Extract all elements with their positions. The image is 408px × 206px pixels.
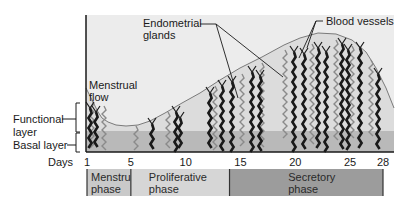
phase-label-line1: Secretory	[288, 171, 336, 183]
phase-label-line2: phase	[288, 183, 318, 195]
menstrual-cycle-diagram: Functional layer Basal layer Menstrual f…	[0, 0, 408, 206]
endometrial-glands-label-2: glands	[143, 29, 176, 41]
basal-layer-label: Basal layer	[13, 139, 68, 151]
day-tick-label: 15	[234, 156, 246, 168]
phase-label-line1: Proliferative	[149, 171, 207, 183]
functional-layer-label-1: Functional	[13, 113, 64, 125]
day-tick-label: 28	[377, 156, 389, 168]
day-tick-label: 10	[180, 156, 192, 168]
menstrual-flow-label-1: Menstrual	[89, 79, 137, 91]
day-tick-label: 20	[289, 156, 301, 168]
menstrual-flow-label-2: flow	[89, 91, 109, 103]
days-axis-label: Days	[48, 156, 74, 168]
endometrial-glands-label-1: Endometrial	[143, 17, 202, 29]
functional-layer-label-2: layer	[13, 126, 37, 138]
blood-vessels-label: Blood vessels	[326, 15, 394, 27]
day-tick-label: 1	[84, 156, 90, 168]
day-tick-label: 5	[128, 156, 134, 168]
phase-label-line2: phase	[149, 183, 179, 195]
functional-layer-bracket	[76, 103, 80, 132]
phase-bar: MenstrualphaseProliferativephaseSecretor…	[87, 169, 383, 196]
phase-label-line2: phase	[91, 183, 121, 195]
day-tick-label: 25	[344, 156, 356, 168]
basal-layer-bracket	[76, 133, 80, 152]
day-ticks: 151015202528	[84, 156, 389, 168]
